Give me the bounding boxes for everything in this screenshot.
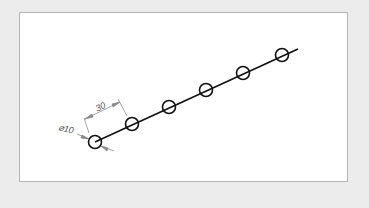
technical-drawing: 30 ⌀10 (0, 0, 369, 208)
arrowhead-right (112, 102, 120, 107)
hole-3 (163, 101, 176, 114)
extension-line-left (84, 118, 89, 133)
diameter-arrowhead-in (81, 135, 89, 139)
hole-4 (200, 84, 213, 97)
spacing-dimension (84, 99, 127, 133)
centerline (95, 49, 298, 142)
extension-line-right (118, 99, 127, 116)
diameter-arrowhead-out (101, 146, 108, 151)
hole-2 (126, 118, 139, 131)
hole-5 (237, 67, 250, 80)
diameter-dimension-label: ⌀10 (58, 123, 75, 136)
arrowhead-left (85, 114, 93, 119)
spacing-dimension-label: 30 (94, 100, 107, 113)
